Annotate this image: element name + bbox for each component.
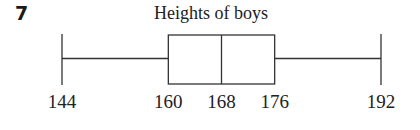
box-plot: 144 160 168 176 192 [0,0,420,130]
tick-label-median: 168 [207,91,236,112]
tick-label-min: 144 [48,91,77,112]
tick-label-q3: 176 [260,91,289,112]
tick-label-q1: 160 [154,91,183,112]
tick-label-max: 192 [367,91,396,112]
